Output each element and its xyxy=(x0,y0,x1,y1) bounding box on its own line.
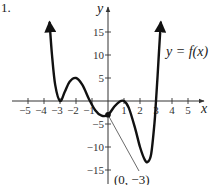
y-axis-label: y xyxy=(95,1,104,16)
y-intercept-point xyxy=(105,112,111,118)
y-tick-label: 15 xyxy=(93,26,105,38)
y-intercept-label: (0, −3) xyxy=(114,172,150,185)
problem-number: 1. xyxy=(1,0,11,15)
function-curve xyxy=(50,23,161,162)
x-tick-label: 2 xyxy=(137,104,143,116)
x-tick-label: 5 xyxy=(185,104,191,116)
y-tick-label: −15 xyxy=(87,164,105,176)
curve-label-text: y = f(x) xyxy=(164,44,208,60)
y-tick-label: 10 xyxy=(93,49,105,61)
x-tick-label: 1 xyxy=(121,104,127,116)
y-tick-label: 5 xyxy=(99,72,105,84)
x-tick-label: −5 xyxy=(19,104,31,116)
x-tick-label: −3 xyxy=(51,104,63,116)
x-axis-label: x xyxy=(200,101,208,116)
y-tick-label: −10 xyxy=(87,141,105,153)
y-tick-label: −5 xyxy=(92,118,104,130)
x-tick-label: −2 xyxy=(67,104,79,116)
x-tick-label: 4 xyxy=(169,104,175,116)
curve-label: y = f(x) xyxy=(164,44,208,60)
axes xyxy=(12,7,204,184)
x-tick-label: −4 xyxy=(35,104,47,116)
graph-figure: 1. y x −5−4−3−2−112345 −15−10−551015 (0,… xyxy=(0,0,217,185)
